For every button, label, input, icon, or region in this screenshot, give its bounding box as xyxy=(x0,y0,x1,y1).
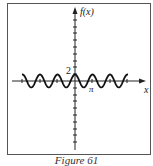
function-plot: f(x) 2 π x xyxy=(0,0,153,166)
figure-caption: Figure 61 xyxy=(0,155,153,166)
y-tick-label-2: 2 xyxy=(66,65,71,76)
x-axis-label: x xyxy=(143,84,149,95)
x-tick-label-pi: π xyxy=(89,84,94,94)
x-axis-arrow-icon xyxy=(139,79,146,84)
y-axis-label: f(x) xyxy=(80,6,95,18)
y-axis-arrow-icon xyxy=(73,7,78,14)
